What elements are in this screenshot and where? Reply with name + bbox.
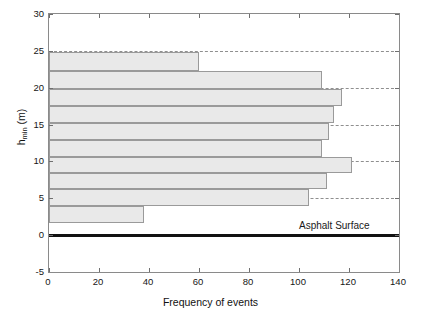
x-tick-140 bbox=[399, 268, 400, 272]
bar-0 bbox=[49, 206, 144, 223]
y-tick-label-20: 20 bbox=[20, 81, 44, 92]
x-tick-top-140 bbox=[399, 14, 400, 18]
x-tick-label-20: 20 bbox=[93, 276, 104, 287]
y-tick-right-25 bbox=[395, 51, 399, 52]
plot-area: Asphalt Surface bbox=[48, 13, 400, 273]
x-tick-100 bbox=[299, 268, 300, 272]
y-tick-right-20 bbox=[395, 88, 399, 89]
y-tick-5 bbox=[49, 198, 53, 199]
y-tick-right--5 bbox=[395, 272, 399, 273]
bar-5 bbox=[49, 123, 329, 140]
x-tick-top-80 bbox=[249, 14, 250, 18]
y-tick-15 bbox=[49, 125, 53, 126]
x-tick-label-80: 80 bbox=[243, 276, 254, 287]
asphalt-surface-label: Asphalt Surface bbox=[299, 220, 370, 231]
y-tick-10 bbox=[49, 161, 53, 162]
x-axis-title: Frequency of events bbox=[0, 296, 421, 308]
x-tick-40 bbox=[149, 268, 150, 272]
x-tick-20 bbox=[99, 268, 100, 272]
y-tick-0 bbox=[49, 235, 53, 236]
y-tick-20 bbox=[49, 88, 53, 89]
y-tick--5 bbox=[49, 272, 53, 273]
x-tick-60 bbox=[199, 268, 200, 272]
y-tick-30 bbox=[49, 14, 53, 15]
bar-8 bbox=[49, 71, 322, 89]
y-tick-25 bbox=[49, 51, 53, 52]
x-tick-label-0: 0 bbox=[45, 276, 50, 287]
x-tick-top-40 bbox=[149, 14, 150, 18]
y-tick-label-30: 30 bbox=[20, 8, 44, 19]
x-tick-label-60: 60 bbox=[193, 276, 204, 287]
y-tick-label-0: 0 bbox=[20, 229, 44, 240]
x-tick-label-120: 120 bbox=[340, 276, 356, 287]
y-tick-label-10: 10 bbox=[20, 155, 44, 166]
bar-6 bbox=[49, 106, 334, 123]
x-tick-label-40: 40 bbox=[143, 276, 154, 287]
bar-4 bbox=[49, 140, 322, 157]
x-tick-80 bbox=[249, 268, 250, 272]
x-tick-top-120 bbox=[349, 14, 350, 18]
y-tick-right-10 bbox=[395, 161, 399, 162]
y-axis-title-subscript: min bbox=[20, 127, 29, 139]
y-tick-right-5 bbox=[395, 198, 399, 199]
x-tick-label-140: 140 bbox=[390, 276, 406, 287]
x-tick-label-100: 100 bbox=[290, 276, 306, 287]
x-tick-top-60 bbox=[199, 14, 200, 18]
bar-9 bbox=[49, 52, 199, 71]
bar-3 bbox=[49, 157, 352, 173]
y-tick-label-25: 25 bbox=[20, 44, 44, 55]
asphalt-surface-line bbox=[49, 234, 399, 237]
y-tick-label-5: 5 bbox=[20, 192, 44, 203]
x-tick-120 bbox=[349, 268, 350, 272]
y-tick-label--5: -5 bbox=[20, 266, 44, 277]
bar-7 bbox=[49, 89, 342, 106]
bar-1 bbox=[49, 189, 309, 206]
y-axis-title-base: h bbox=[15, 139, 27, 145]
y-tick-right-30 bbox=[395, 14, 399, 15]
y-tick-right-15 bbox=[395, 125, 399, 126]
bar-2 bbox=[49, 173, 327, 189]
y-tick-label-15: 15 bbox=[20, 118, 44, 129]
y-tick-right-0 bbox=[395, 235, 399, 236]
chart-figure: Asphalt Surface Frequency of events hmin… bbox=[0, 0, 421, 323]
x-tick-top-100 bbox=[299, 14, 300, 18]
x-tick-top-20 bbox=[99, 14, 100, 18]
